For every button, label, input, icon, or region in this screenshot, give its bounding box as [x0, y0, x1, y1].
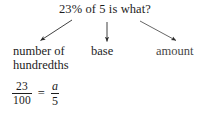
- equals-sign: =: [38, 86, 45, 101]
- fraction-left-denominator: 100: [12, 95, 32, 107]
- label-number-of-hundredths-line1: number of: [13, 44, 65, 58]
- fraction-right: a 5: [51, 80, 59, 107]
- label-amount: amount: [156, 45, 194, 59]
- label-number-of-hundredths-line2: hundredths: [13, 59, 69, 73]
- percent-proportion-diagram: 23% of 5 is what? number of hundredths b…: [0, 0, 210, 115]
- question-statement: 23% of 5 is what?: [0, 2, 210, 16]
- arrow-to-amount: [140, 21, 176, 41]
- proportion-equation: 23 100 = a 5: [12, 80, 59, 107]
- fraction-left-numerator: 23: [15, 81, 29, 93]
- arrow-to-number-of-hundredths: [41, 20, 73, 41]
- label-number-of-hundredths: number of hundredths: [13, 45, 69, 72]
- label-base: base: [91, 45, 113, 59]
- fraction-left: 23 100: [12, 81, 32, 107]
- fraction-right-denominator: 5: [51, 95, 59, 107]
- fraction-right-numerator: a: [51, 80, 59, 92]
